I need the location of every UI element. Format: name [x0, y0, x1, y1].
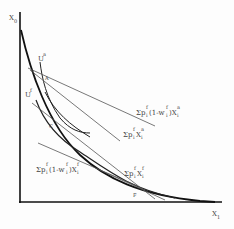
- svg-text:Σp: Σp: [36, 166, 46, 174]
- svg-text:Σp: Σp: [136, 109, 146, 117]
- svg-text:0: 0: [14, 18, 17, 24]
- svg-text:i: i: [133, 134, 135, 140]
- point-f-label: F: [133, 192, 137, 198]
- svg-text:(1-w: (1-w: [49, 166, 65, 174]
- label-u-a: U a: [38, 51, 46, 63]
- svg-text:i: i: [46, 169, 48, 175]
- label-pf-1mwf-xf: Σp i f (1-w i f )X i f: [36, 161, 80, 175]
- budget-lines: [28, 68, 165, 200]
- axes: [19, 12, 222, 203]
- svg-text:1: 1: [217, 214, 220, 220]
- x-axis-label: X 1: [212, 210, 220, 220]
- budget-line-pf-1mwf-xf: [38, 143, 137, 186]
- svg-text:i: i: [142, 173, 144, 179]
- svg-text:a: a: [141, 126, 144, 132]
- diagram-canvas: X 0 X 1 U a U f A C F Σp i f (1-w i f )X…: [0, 0, 234, 229]
- svg-text:)X: )X: [169, 109, 177, 117]
- label-pf-xf: Σp i f X i f: [124, 165, 145, 179]
- svg-text:i: i: [141, 134, 143, 140]
- y-axis-label: X 0: [9, 14, 17, 24]
- svg-text:Σp: Σp: [124, 170, 134, 178]
- point-c-label: C: [49, 123, 53, 129]
- svg-text:a: a: [43, 51, 46, 57]
- svg-text:i: i: [134, 173, 136, 179]
- svg-text:i: i: [66, 169, 68, 175]
- label-pf-xa: Σp i f X i a: [123, 126, 144, 140]
- svg-text:(1-w: (1-w: [149, 109, 165, 117]
- label-pf-1mwf-xa: Σp i f (1-w i f )X i a: [136, 104, 180, 118]
- svg-text:f: f: [30, 87, 33, 93]
- svg-text:f: f: [142, 165, 145, 171]
- svg-text:f: f: [77, 161, 80, 167]
- svg-text:Σp: Σp: [123, 131, 133, 139]
- svg-text:i: i: [177, 112, 179, 118]
- point-a-label: A: [44, 75, 49, 81]
- svg-text:a: a: [177, 104, 180, 110]
- svg-text:i: i: [146, 112, 148, 118]
- svg-text:)X: )X: [69, 166, 77, 174]
- label-u-f: U f: [25, 87, 33, 99]
- svg-text:i: i: [166, 112, 168, 118]
- svg-text:i: i: [77, 169, 79, 175]
